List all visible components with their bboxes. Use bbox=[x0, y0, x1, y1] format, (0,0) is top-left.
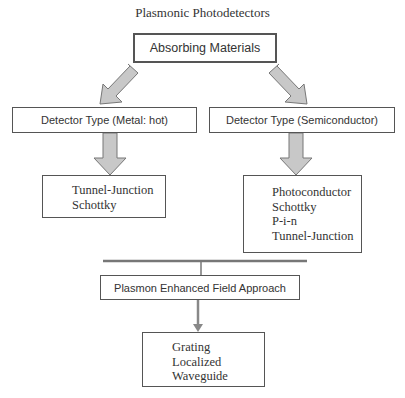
detector-semiconductor-label: Detector Type (Semiconductor) bbox=[226, 114, 378, 126]
approach-item: Grating bbox=[172, 340, 264, 355]
semiconductor-items-box: Photoconductor Schottky P-i-n Tunnel-Jun… bbox=[243, 175, 362, 253]
approach-item: Localized bbox=[172, 355, 264, 370]
semiconductor-item: P-i-n bbox=[272, 214, 361, 229]
semiconductor-item: Tunnel-Junction bbox=[272, 229, 361, 244]
metal-item: Tunnel-Junction bbox=[72, 183, 165, 198]
arrow-root-to-semiconductor bbox=[269, 64, 307, 104]
arrow-semiconductor-to-items bbox=[280, 133, 312, 175]
metal-items-box: Tunnel-Junction Schottky bbox=[42, 175, 166, 218]
approach-items-box: Grating Localized Waveguide bbox=[142, 332, 265, 387]
metal-item: Schottky bbox=[72, 198, 165, 213]
semiconductor-item: Schottky bbox=[272, 200, 361, 215]
plasmon-approach-label: Plasmon Enhanced Field Approach bbox=[114, 282, 286, 294]
absorbing-materials-label: Absorbing Materials bbox=[150, 41, 260, 55]
approach-item: Waveguide bbox=[172, 369, 264, 384]
arrow-metal-to-items bbox=[94, 133, 126, 175]
approach-arrow-head bbox=[193, 324, 203, 332]
absorbing-materials-box: Absorbing Materials bbox=[133, 33, 277, 63]
arrow-root-to-metal bbox=[100, 64, 138, 104]
detector-metal-label: Detector Type (Metal: hot) bbox=[41, 114, 168, 126]
detector-semiconductor-box: Detector Type (Semiconductor) bbox=[209, 107, 395, 133]
detector-metal-box: Detector Type (Metal: hot) bbox=[12, 107, 197, 133]
plasmon-approach-box: Plasmon Enhanced Field Approach bbox=[100, 275, 300, 300]
semiconductor-item: Photoconductor bbox=[272, 185, 361, 200]
